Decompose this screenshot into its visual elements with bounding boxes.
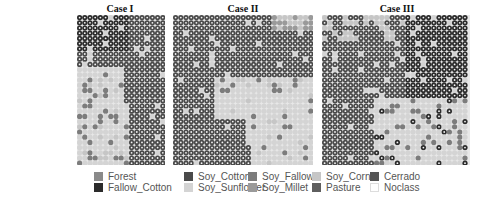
map-cell-center xyxy=(141,69,143,71)
map-cell xyxy=(390,119,395,124)
map-cell-center xyxy=(136,126,138,128)
map-cell-center xyxy=(248,162,250,164)
map-cell-center xyxy=(289,64,291,66)
map-cell xyxy=(287,93,292,98)
legend-label: Fallow_Cotton xyxy=(108,182,172,193)
map-cell-center xyxy=(360,105,362,107)
map-cell xyxy=(282,129,287,134)
map-cell xyxy=(400,129,405,134)
map-cell-center xyxy=(263,58,265,60)
map-cell-center xyxy=(237,48,239,50)
map-cell xyxy=(108,83,113,88)
map-cell xyxy=(93,129,98,134)
map-cell-center xyxy=(232,27,234,29)
map-cell xyxy=(442,135,447,140)
map-cell-center xyxy=(126,38,128,40)
map-cell xyxy=(220,83,225,88)
map-cell-center xyxy=(242,142,244,144)
map-cell-center xyxy=(222,142,224,144)
map-cell xyxy=(436,119,441,124)
map-cell xyxy=(379,25,384,30)
map-cell-center xyxy=(339,95,341,97)
map-cell-center xyxy=(126,27,128,29)
map-cell-center xyxy=(324,90,326,92)
map-cell xyxy=(416,114,421,119)
map-cell xyxy=(256,140,261,145)
map-cell-center xyxy=(438,64,440,66)
map-cell-center xyxy=(157,110,159,112)
map-cell-center xyxy=(242,27,244,29)
map-cell xyxy=(119,135,124,140)
map-cell-center xyxy=(449,110,451,112)
map-cell-center xyxy=(216,126,218,128)
map-cell xyxy=(87,103,92,108)
map-cell-center xyxy=(185,152,187,154)
map-cell-center xyxy=(237,69,239,71)
map-cell-center xyxy=(360,162,362,164)
map-cell-center xyxy=(105,27,107,29)
map-cell-center xyxy=(360,136,362,138)
map-cell xyxy=(374,119,379,124)
map-cell xyxy=(98,83,103,88)
map-cell xyxy=(256,150,261,155)
map-cell xyxy=(421,140,426,145)
map-cell-center xyxy=(438,147,440,149)
map-cell-center xyxy=(284,38,286,40)
map-cell-center xyxy=(324,84,326,86)
map-cell-center xyxy=(350,131,352,133)
map-cell-center xyxy=(175,58,177,60)
map-cell-center xyxy=(211,147,213,149)
map-cell xyxy=(298,150,303,155)
map-cell-center xyxy=(360,152,362,154)
map-cell xyxy=(421,114,426,119)
map-cell xyxy=(287,114,292,119)
map-cell-center xyxy=(136,32,138,34)
map-cell xyxy=(282,15,287,20)
map-cell-center xyxy=(227,157,229,159)
map-cell xyxy=(108,114,113,119)
map-cell xyxy=(395,51,400,56)
map-cell-center xyxy=(464,48,466,50)
map-cell-center xyxy=(324,157,326,159)
map-cell xyxy=(82,72,87,77)
map-cell-center xyxy=(412,53,414,55)
map-cell-center xyxy=(232,58,234,60)
map-cell-center xyxy=(180,64,182,66)
map-cell xyxy=(119,124,124,129)
map-cell xyxy=(267,98,272,103)
map-cell-center xyxy=(371,105,373,107)
map-cell xyxy=(103,98,108,103)
map-cell xyxy=(303,124,308,129)
map-cell xyxy=(410,98,415,103)
map-cell-center xyxy=(300,58,302,60)
map-cell-center xyxy=(360,48,362,50)
map-cell-center xyxy=(397,48,399,50)
map-cell xyxy=(405,145,410,150)
map-cell xyxy=(256,93,261,98)
map-cell-center xyxy=(175,17,177,19)
map-cell xyxy=(277,62,282,67)
map-cell-center xyxy=(185,38,187,40)
map-cell xyxy=(251,77,256,82)
map-cell-center xyxy=(146,95,148,97)
map-cell-center xyxy=(443,64,445,66)
map-cell-center xyxy=(232,32,234,34)
map-cell xyxy=(272,93,277,98)
map-cell-center xyxy=(131,105,133,107)
map-cell-center xyxy=(180,152,182,154)
map-cell-center xyxy=(339,27,341,29)
map-cell xyxy=(410,135,415,140)
map-cell-center xyxy=(152,53,154,55)
map-cell-center xyxy=(89,64,91,66)
map-cell xyxy=(303,20,308,25)
map-cell-center xyxy=(350,43,352,45)
map-cell-center xyxy=(329,69,331,71)
map-cell-center xyxy=(329,90,331,92)
map-cell xyxy=(442,140,447,145)
map-cell-center xyxy=(157,27,159,29)
map-cell xyxy=(103,124,108,129)
legend-swatch xyxy=(248,172,257,181)
map-cell-center xyxy=(136,17,138,19)
map-cell-center xyxy=(334,84,336,86)
map-cell xyxy=(82,119,87,124)
